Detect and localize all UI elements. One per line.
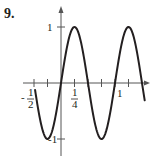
x-label-neg-half-den: 2 (28, 98, 34, 110)
y-label-1: 1 (47, 21, 53, 33)
x-label-neg-half-num: 1 (28, 86, 34, 98)
y-axis-arrow-icon (59, 6, 64, 13)
x-label-one: 1 (117, 87, 123, 99)
x-label-quarter-den: 4 (72, 98, 78, 110)
sine-graph: 1 -1 - 1 2 1 4 1 (0, 0, 166, 162)
y-label-neg1: -1 (48, 133, 57, 145)
x-label-quarter-num: 1 (72, 86, 78, 98)
x-label-neg-half-sign: - (21, 91, 25, 103)
x-axis-arrow-icon (144, 81, 150, 86)
